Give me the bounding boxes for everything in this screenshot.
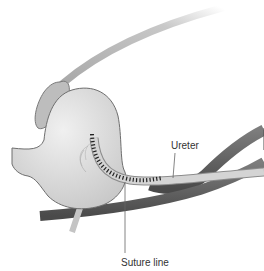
suture-line-label: Suture line — [121, 258, 169, 268]
ureter-label: Ureter — [171, 141, 199, 151]
bladder — [12, 88, 126, 209]
upper-duct — [62, 8, 222, 84]
ureter-leader-line — [173, 153, 175, 178]
anatomy-illustration — [0, 0, 264, 271]
diagram-canvas: Ureter Suture line — [0, 0, 264, 271]
